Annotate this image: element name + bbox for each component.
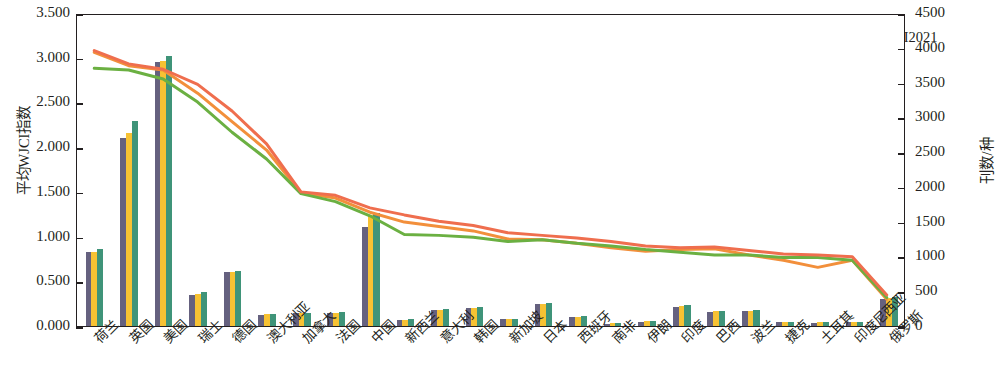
- y-tick-right: 2500: [915, 143, 945, 160]
- y-tick-mark-right: [898, 223, 905, 225]
- y-tick-mark-left: [76, 327, 83, 329]
- line-series: [94, 52, 886, 299]
- y-tick-right: 4000: [915, 39, 945, 56]
- y-tick-left: 3.000: [20, 49, 70, 66]
- y-tick-right: 3500: [915, 74, 945, 91]
- y-tick-mark-left: [76, 14, 83, 16]
- y-tick-mark-left: [76, 193, 83, 195]
- plot-area: [76, 14, 905, 327]
- y-tick-left: 2.500: [20, 93, 70, 110]
- y-tick-left: 0.500: [20, 272, 70, 289]
- y-tick-mark-left: [76, 282, 83, 284]
- y-axis-right-title: 刊数/种: [975, 121, 996, 201]
- y-tick-mark-left: [76, 103, 83, 105]
- y-tick-left: 0.000: [20, 317, 70, 334]
- y-tick-right: 500: [915, 282, 938, 299]
- lines-layer: [77, 15, 904, 326]
- line-series: [94, 68, 886, 297]
- y-tick-mark-right: [898, 84, 905, 86]
- y-tick-mark-left: [76, 59, 83, 61]
- y-tick-right: 2000: [915, 178, 945, 195]
- y-tick-mark-right: [898, 153, 905, 155]
- y-tick-mark-left: [76, 148, 83, 150]
- y-tick-mark-right: [898, 49, 905, 51]
- y-tick-left: 2.000: [20, 138, 70, 155]
- y-tick-mark-left: [76, 238, 83, 240]
- y-tick-mark-right: [898, 118, 905, 120]
- y-tick-right: 1500: [915, 213, 945, 230]
- y-tick-right: 3000: [915, 108, 945, 125]
- y-tick-mark-right: [898, 14, 905, 16]
- y-tick-right: 1000: [915, 247, 945, 264]
- y-tick-mark-right: [898, 188, 905, 190]
- y-tick-left: 1.500: [20, 183, 70, 200]
- y-tick-right: 4500: [915, 4, 945, 21]
- y-tick-left: 3.500: [20, 4, 70, 21]
- y-tick-left: 1.000: [20, 228, 70, 245]
- y-tick-mark-right: [898, 257, 905, 259]
